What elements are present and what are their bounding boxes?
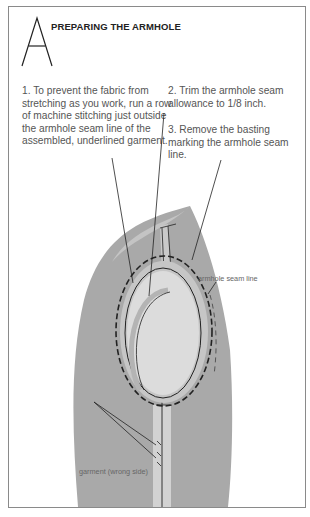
- garment-wrong-side-label: garment (wrong side): [79, 467, 148, 476]
- armhole-seam-line-label: armhole seam line: [198, 274, 258, 283]
- armhole-diagram: [0, 0, 310, 517]
